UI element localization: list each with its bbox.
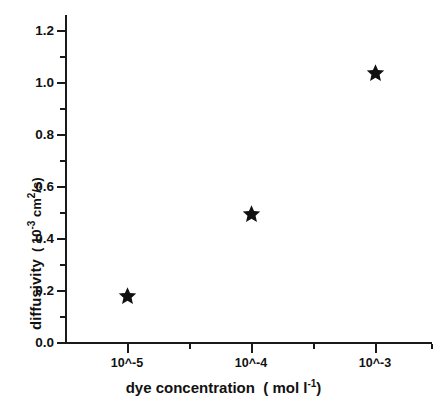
x-tick-minor: [189, 344, 191, 349]
star-icon: [118, 286, 137, 305]
y-tick-minor: [60, 160, 65, 162]
y-tick-minor: [60, 264, 65, 266]
star-icon: [242, 204, 261, 223]
x-tick-minor: [313, 344, 315, 349]
y-unit-exponent: -3: [26, 221, 37, 230]
y-tick-major: [57, 238, 65, 240]
y-axis-title-unit: ( 10-3 cm2/s): [29, 177, 44, 259]
x-tick-label-wrap: 10^-4: [211, 353, 291, 371]
y-tick-major: [57, 342, 65, 344]
y-tick-major: [57, 186, 65, 188]
x-tick-major: [127, 344, 129, 353]
x-tick-label-wrap: 10^-3: [335, 353, 415, 371]
y-tick-minor: [60, 108, 65, 110]
y-unit-exponent-2: 2: [26, 193, 37, 199]
data-point-2[interactable]: [242, 204, 261, 223]
y-tick-major: [57, 82, 65, 84]
x-unit-close: ): [316, 379, 321, 396]
y-tick-minor: [60, 212, 65, 214]
y-axis-title-main: diffusivity: [27, 259, 44, 330]
data-point-3[interactable]: [366, 63, 385, 82]
y-axis-title-holder: diffusivity ( 10-3 cm2/s): [4, 0, 30, 343]
y-tick-minor: [60, 56, 65, 58]
y-tick-minor: [60, 316, 65, 318]
x-tick-label: 10^-4: [235, 356, 267, 370]
y-tick-major: [57, 30, 65, 32]
x-tick-base: 10^-5: [111, 356, 143, 370]
scan-edge-artifact: [0, 404, 447, 413]
x-unit-open: ( mol l: [263, 379, 307, 396]
y-unit-close: /s): [29, 177, 44, 192]
x-axis-title-main: dye concentration: [126, 379, 255, 396]
x-tick-base: 10^-4: [235, 356, 267, 370]
x-unit-exponent: -1: [307, 378, 316, 389]
y-tick-major: [57, 290, 65, 292]
y-axis-title: diffusivity ( 10-3 cm2/s): [26, 177, 44, 330]
x-tick-base: 10^-3: [359, 356, 391, 370]
y-unit-rest: cm: [29, 198, 44, 220]
x-tick-label: 10^-5: [111, 356, 143, 370]
x-tick-label-wrap: 10^-5: [87, 353, 167, 371]
x-tick-major: [251, 344, 253, 353]
x-tick-major: [375, 344, 377, 353]
y-unit-open: ( 10: [29, 230, 44, 252]
star-icon: [366, 63, 385, 82]
x-tick-label: 10^-3: [359, 356, 391, 370]
scatter-chart-figure: 0.0 0.2 0.4 0.6 0.8 1.0 1.2 10^-5 10^-4 …: [0, 0, 447, 413]
data-point-1[interactable]: [118, 286, 137, 305]
y-tick-major: [57, 134, 65, 136]
y-axis-line: [65, 15, 67, 344]
x-axis-title: dye concentration ( mol l-1): [0, 378, 447, 396]
x-tick-minor: [431, 344, 433, 349]
